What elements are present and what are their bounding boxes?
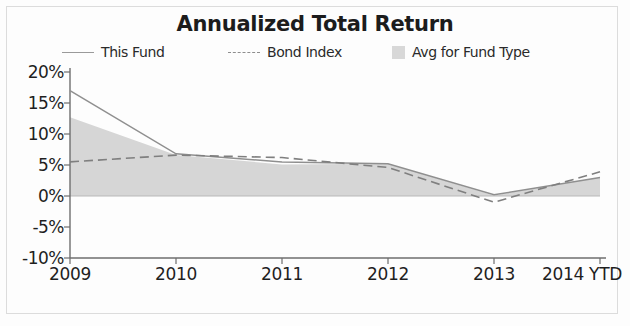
x-axis-tick-label: 2014 YTD (542, 264, 622, 284)
y-axis-tick-label: 0% (8, 186, 64, 206)
plot-area: 20%15%10%5%0%-5%-10% 2009201020112012201… (0, 0, 630, 326)
x-axis-tick-label: 2010 (155, 264, 197, 284)
y-axis-tick-label: 15% (8, 93, 64, 113)
chart-card: Annualized Total Return This Fund Bond I… (0, 0, 630, 326)
x-axis-tick-label: 2009 (49, 264, 91, 284)
y-axis-tick-label: 20% (8, 62, 64, 82)
y-axis-tick-label: 5% (8, 155, 64, 175)
x-axis-tick-label: 2011 (261, 264, 303, 284)
x-axis-tick-label: 2012 (367, 264, 409, 284)
y-axis-tick-label: 10% (8, 124, 64, 144)
series-area-avg-for-fund-type (70, 117, 600, 196)
x-axis-tick-label: 2013 (473, 264, 515, 284)
y-axis-tick-label: -5% (8, 217, 64, 237)
chart-plot-svg (0, 0, 630, 326)
